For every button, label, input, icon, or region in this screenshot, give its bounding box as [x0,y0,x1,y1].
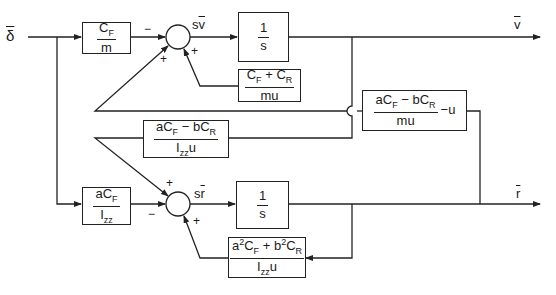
a2-feedback-line [184,216,228,258]
output-r-label: r [516,186,520,201]
block-cross-term-mu: aCF − bCR mu −u [362,90,467,131]
r-feedback-branch-line [306,204,352,258]
input-branch-line [57,37,81,204]
block-cf-plus-cr-over-mu: CF + CR mu [238,69,301,102]
sum-v-plus-sign-bottom: + [191,44,198,58]
summing-junction-r [166,192,190,216]
input-delta-label: δ [6,27,14,44]
sv-label: sv [192,17,205,32]
sr-label: sr [194,186,205,201]
r-branch-to-cross-line [466,111,480,204]
block-cf-over-m: CF m [82,22,131,54]
output-v-label: v [514,17,521,32]
block-integrator-r: 1 s [236,181,289,229]
r-cross-to-sum-v-line [95,46,347,111]
sum-r-minus-sign: − [148,207,155,221]
block-a2cf-b2cr-over-izzu: a2CF + b2CR Izzu [228,237,306,278]
sum-r-plus-sign-top: + [166,176,173,190]
sum-v-plus-sign-left: + [160,52,167,66]
block-integrator-v: 1 s [238,12,289,62]
sum-v-minus-sign: − [144,22,151,36]
block-cross-term-izz: aCF − bCR Izzu [143,120,229,158]
sum-r-plus-sign-bottom: + [193,214,200,228]
block-acf-over-izz: aCF Izz [82,187,131,225]
summing-junction-v [166,25,190,49]
